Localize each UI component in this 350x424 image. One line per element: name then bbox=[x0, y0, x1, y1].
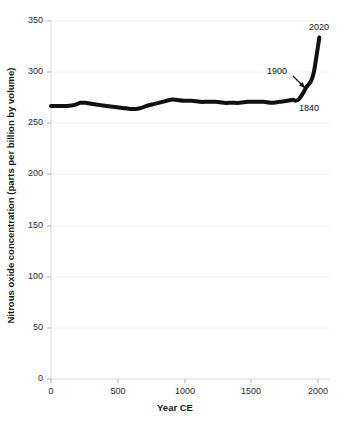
y-tick-label-0: 0 bbox=[17, 373, 43, 383]
annotation-arrow-1900 bbox=[293, 76, 305, 88]
y-tick-label-350: 350 bbox=[17, 15, 43, 25]
plot-gridlines bbox=[51, 21, 330, 328]
y-tick-label-250: 250 bbox=[17, 117, 43, 127]
y-axis-ticks bbox=[47, 21, 51, 379]
annotation-label-2020: 2020 bbox=[309, 22, 329, 32]
y-tick-label-150: 150 bbox=[17, 220, 43, 230]
y-tick-label-100: 100 bbox=[17, 271, 43, 281]
x-tick-label-0: 0 bbox=[31, 386, 71, 396]
y-tick-label-300: 300 bbox=[17, 66, 43, 76]
annotation-label-1900: 1900 bbox=[267, 66, 287, 76]
annotation-label-1840: 1840 bbox=[299, 103, 319, 113]
axis-lines bbox=[51, 21, 330, 379]
y-tick-label-50: 50 bbox=[17, 322, 43, 332]
y-tick-label-200: 200 bbox=[17, 168, 43, 178]
x-tick-label-1500: 1500 bbox=[231, 386, 271, 396]
x-tick-label-2000: 2000 bbox=[298, 386, 338, 396]
chart-plot-area bbox=[0, 0, 350, 424]
x-tick-label-500: 500 bbox=[98, 386, 138, 396]
x-tick-label-1000: 1000 bbox=[165, 386, 205, 396]
x-axis-ticks bbox=[51, 379, 318, 383]
y-axis-title-text: Nitrous oxide concentration (parts per b… bbox=[5, 67, 16, 323]
chart-container: Nitrous oxide concentration (parts per b… bbox=[0, 0, 350, 424]
x-axis-title: Year CE bbox=[0, 402, 350, 413]
